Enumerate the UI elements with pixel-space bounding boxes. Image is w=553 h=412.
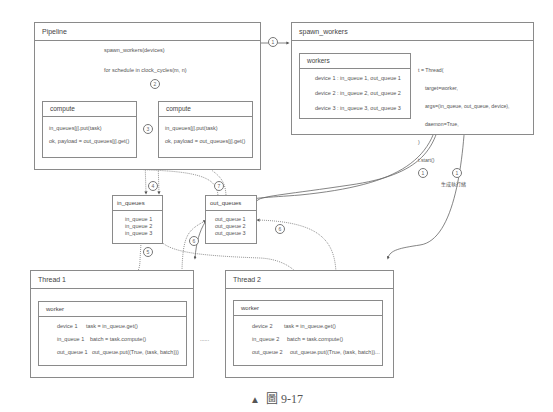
pipeline-title: Pipeline bbox=[35, 23, 260, 41]
ellipsis: ...... bbox=[200, 336, 209, 342]
compute-put: in_queues[j].put(task) bbox=[165, 125, 218, 131]
worker-box-2: worker device 2 task = in_queue.get() in… bbox=[233, 300, 383, 366]
step-3-marker: 3 bbox=[143, 124, 153, 134]
step-7-marker: 7 bbox=[214, 181, 224, 191]
row-code: task = in_queue.get() bbox=[86, 323, 138, 329]
in-queues-title: in_queues bbox=[113, 196, 162, 211]
step-6-marker-right: 6 bbox=[275, 224, 285, 234]
code-line: ) bbox=[418, 139, 510, 145]
worker-title: worker bbox=[234, 301, 382, 316]
step-1-marker-thread1: 1 bbox=[418, 168, 428, 178]
code-line: t.start() bbox=[418, 157, 510, 163]
thread-code: t = Thread( target=worker, args=(in_queu… bbox=[418, 55, 510, 169]
workers-title: workers bbox=[300, 54, 410, 69]
out-queue-item: out_queue 1 bbox=[215, 216, 246, 222]
compute-put: in_queues[j].put(task) bbox=[49, 125, 102, 131]
row-label: in_queue 1 bbox=[57, 336, 84, 342]
step-1-marker: 1 bbox=[268, 37, 278, 47]
triangle-icon: ▲ bbox=[250, 394, 260, 405]
row-label: device 1 bbox=[57, 323, 78, 329]
in-queue-item: in_queue 3 bbox=[125, 230, 152, 236]
row-label: out_queue 1 bbox=[57, 349, 88, 355]
out-queue-item: out_queue 2 bbox=[215, 223, 246, 229]
compute-box-2: compute in_queues[j].put(task) ok, paylo… bbox=[158, 101, 253, 158]
code-line: daemon=True, bbox=[418, 121, 510, 127]
worker-row: device 1 : in_queue 1, out_queue 1 bbox=[315, 75, 401, 81]
row-code: out_queue.put((True, (task, batch))... bbox=[290, 349, 380, 355]
code-line: t = Thread( bbox=[418, 67, 510, 73]
thread-title: Thread 2 bbox=[226, 271, 393, 289]
row-code: out_queue.put((True, (task, batch))) bbox=[92, 349, 179, 355]
worker-box-1: worker device 1 task = in_queue.get() in… bbox=[38, 301, 187, 366]
step-2-marker: 2 bbox=[150, 79, 160, 89]
worker-row: device 2 : in_queue 2, out_queue 2 bbox=[315, 90, 401, 96]
spawn-workers-call: spawn_workers(devices) bbox=[104, 47, 165, 53]
worker-title: worker bbox=[39, 302, 186, 317]
figure-caption: ▲圖 9-17 bbox=[0, 389, 553, 407]
code-line: target=worker, bbox=[418, 85, 510, 91]
create-thread-annotation: 生成執行緒 bbox=[441, 180, 466, 187]
code-line: args=(in_queue, out_queue, device), bbox=[418, 103, 510, 109]
row-label: device 2 bbox=[252, 323, 273, 329]
compute-box-1: compute in_queues[j].put(task) ok, paylo… bbox=[42, 101, 137, 158]
out-queues-box: out_queues out_queue 1 out_queue 2 out_q… bbox=[205, 195, 257, 244]
row-label: in_queue 2 bbox=[252, 336, 279, 342]
row-label: out_queue 2 bbox=[252, 349, 283, 355]
step-4-marker: 4 bbox=[148, 181, 158, 191]
schedule-loop: for schedule in clock_cycles(m, n) bbox=[104, 67, 187, 73]
row-code: batch = task.compute() bbox=[287, 336, 343, 342]
in-queue-item: in_queue 2 bbox=[125, 223, 152, 229]
row-code: task = in_queue.get() bbox=[284, 323, 336, 329]
worker-row: device 3 : in_queue 3, out_queue 3 bbox=[315, 105, 401, 111]
compute-get: ok, payload = out_queues[j].get() bbox=[165, 138, 245, 144]
in-queue-item: in_queue 1 bbox=[125, 216, 152, 222]
compute-title: compute bbox=[43, 102, 136, 117]
compute-title: compute bbox=[159, 102, 252, 117]
out-queue-item: out_queue 3 bbox=[215, 230, 246, 236]
row-code: batch = task.compute() bbox=[90, 336, 146, 342]
compute-get: ok, payload = out_queues[j].get() bbox=[49, 138, 129, 144]
step-1-marker-thread2: 1 bbox=[452, 168, 462, 178]
spawn-workers-title: spawn_workers bbox=[292, 23, 533, 41]
thread-title: Thread 1 bbox=[31, 271, 193, 289]
in-queues-box: in_queues in_queue 1 in_queue 2 in_queue… bbox=[112, 195, 163, 244]
caption-text: 圖 9-17 bbox=[266, 392, 303, 406]
workers-box: workers device 1 : in_queue 1, out_queue… bbox=[299, 53, 411, 119]
step-6-marker-left: 6 bbox=[189, 236, 199, 246]
step-5-marker: 5 bbox=[143, 247, 153, 257]
out-queues-title: out_queues bbox=[206, 196, 256, 211]
